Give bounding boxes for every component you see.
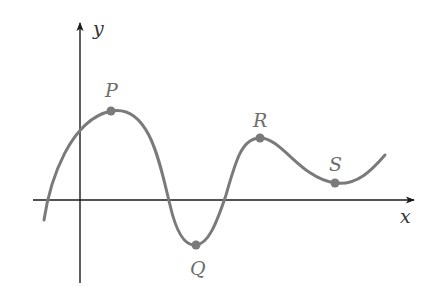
point-s-marker [331, 179, 340, 188]
point-p-label: P [104, 79, 119, 101]
function-graph: y x P Q R S [0, 0, 441, 297]
x-axis-label: x [400, 205, 411, 227]
point-r-label: R [252, 109, 267, 131]
point-q-marker [192, 241, 201, 250]
point-s-label: S [329, 153, 342, 175]
point-r-marker [256, 134, 265, 143]
y-axis-label: y [92, 17, 104, 39]
point-q-label: Q [190, 257, 206, 279]
point-p-marker [107, 107, 116, 116]
function-curve [44, 110, 385, 245]
